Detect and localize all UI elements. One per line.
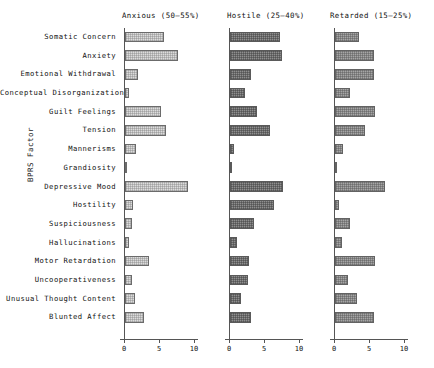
bar-row bbox=[124, 159, 224, 178]
bar-row bbox=[334, 103, 434, 122]
bar[interactable] bbox=[230, 106, 257, 117]
bar[interactable] bbox=[230, 237, 237, 248]
bar-row bbox=[229, 159, 329, 178]
bar-row bbox=[229, 215, 329, 234]
x-tick-label: 10 bbox=[190, 345, 198, 353]
bar[interactable] bbox=[125, 275, 132, 286]
bar[interactable] bbox=[125, 69, 138, 80]
category-label: Guilt Feelings bbox=[0, 103, 120, 122]
bar[interactable] bbox=[230, 200, 274, 211]
x-tick bbox=[124, 339, 125, 343]
bar[interactable] bbox=[335, 50, 374, 61]
bar-row bbox=[124, 252, 224, 271]
bar-row bbox=[229, 290, 329, 309]
x-tick bbox=[369, 339, 370, 343]
bar[interactable] bbox=[125, 88, 129, 99]
bar[interactable] bbox=[125, 293, 135, 304]
x-tick bbox=[229, 339, 230, 343]
bar-row bbox=[229, 28, 329, 47]
bar[interactable] bbox=[230, 144, 234, 155]
panel-title-retarded: Retarded (15—25%) bbox=[330, 11, 412, 20]
bar-row bbox=[124, 28, 224, 47]
bar[interactable] bbox=[335, 237, 342, 248]
bar-row bbox=[124, 271, 224, 290]
bar[interactable] bbox=[230, 312, 251, 323]
bar-row bbox=[124, 103, 224, 122]
category-label: Uncooperativeness bbox=[0, 271, 120, 290]
category-label: Conceptual Disorganization bbox=[0, 84, 120, 103]
bar[interactable] bbox=[125, 218, 132, 229]
bar[interactable] bbox=[335, 293, 357, 304]
bar[interactable] bbox=[335, 88, 350, 99]
bar[interactable] bbox=[230, 275, 248, 286]
bar[interactable] bbox=[230, 181, 283, 192]
bar[interactable] bbox=[335, 69, 374, 80]
panel-title-hostile: Hostile (25—40%) bbox=[227, 11, 305, 20]
bar[interactable] bbox=[125, 200, 133, 211]
x-tick-label: 5 bbox=[262, 345, 266, 353]
bar[interactable] bbox=[125, 237, 129, 248]
bar[interactable] bbox=[125, 32, 164, 43]
bar[interactable] bbox=[230, 69, 251, 80]
bar[interactable] bbox=[335, 106, 375, 117]
category-label: Motor Retardation bbox=[0, 252, 120, 271]
bar[interactable] bbox=[230, 293, 241, 304]
bar[interactable] bbox=[125, 312, 144, 323]
bprs-factor-chart: BPRS Factor Somatic ConcernAnxietyEmotio… bbox=[0, 0, 434, 368]
category-label: Unusual Thought Content bbox=[0, 290, 120, 309]
bar[interactable] bbox=[230, 256, 249, 267]
bar-row bbox=[124, 65, 224, 84]
panel-anxious: Anxious (50—55%) 0510 bbox=[124, 28, 224, 342]
x-tick-label: 10 bbox=[295, 345, 303, 353]
bar-row bbox=[229, 84, 329, 103]
category-label: Suspiciousness bbox=[0, 215, 120, 234]
panel-hostile: Hostile (25—40%) 0510 bbox=[229, 28, 329, 342]
bar[interactable] bbox=[335, 256, 375, 267]
x-tick bbox=[264, 339, 265, 343]
bar[interactable] bbox=[335, 275, 348, 286]
bar-row bbox=[124, 290, 224, 309]
bar[interactable] bbox=[335, 32, 359, 43]
x-tick-label: 10 bbox=[400, 345, 408, 353]
bar-row bbox=[124, 196, 224, 215]
bar[interactable] bbox=[125, 162, 127, 173]
bar[interactable] bbox=[335, 181, 385, 192]
category-label: Somatic Concern bbox=[0, 28, 120, 47]
x-tick bbox=[159, 339, 160, 343]
bar-row bbox=[124, 140, 224, 159]
bar[interactable] bbox=[335, 312, 374, 323]
bar-row bbox=[229, 234, 329, 253]
bar-row bbox=[124, 84, 224, 103]
bar-row bbox=[334, 308, 434, 327]
bar[interactable] bbox=[335, 125, 365, 136]
x-tick bbox=[334, 339, 335, 343]
bar-row bbox=[229, 178, 329, 197]
category-label: Blunted Affect bbox=[0, 308, 120, 327]
bar-row bbox=[334, 234, 434, 253]
bar-row bbox=[229, 271, 329, 290]
bar[interactable] bbox=[230, 50, 282, 61]
bar[interactable] bbox=[230, 218, 254, 229]
category-label: Grandiosity bbox=[0, 159, 120, 178]
bar[interactable] bbox=[125, 144, 136, 155]
category-label-column: Somatic ConcernAnxietyEmotional Withdraw… bbox=[0, 28, 120, 327]
bar-row bbox=[334, 196, 434, 215]
bar[interactable] bbox=[335, 144, 343, 155]
bar[interactable] bbox=[335, 200, 339, 211]
category-label: Hallucinations bbox=[0, 234, 120, 253]
bar[interactable] bbox=[125, 181, 188, 192]
bar[interactable] bbox=[125, 125, 166, 136]
bar[interactable] bbox=[335, 162, 337, 173]
bar[interactable] bbox=[125, 50, 178, 61]
bar[interactable] bbox=[230, 162, 232, 173]
x-tick-label: 5 bbox=[367, 345, 371, 353]
bar-row bbox=[334, 271, 434, 290]
bar[interactable] bbox=[230, 88, 245, 99]
bar-row bbox=[334, 178, 434, 197]
bar[interactable] bbox=[230, 32, 280, 43]
bar[interactable] bbox=[230, 125, 270, 136]
bar[interactable] bbox=[125, 106, 161, 117]
bar[interactable] bbox=[335, 218, 350, 229]
bar-row bbox=[124, 121, 224, 140]
bar[interactable] bbox=[125, 256, 149, 267]
